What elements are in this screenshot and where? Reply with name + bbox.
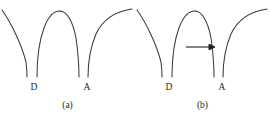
figure-container: D A (a) D A (b) (0, 0, 270, 122)
panel-b-acceptor-label: A (214, 83, 230, 93)
right-outer-wall-curve (88, 9, 132, 77)
panel-b-donor-label: D (161, 83, 177, 93)
panel-a: D A (a) (0, 0, 135, 122)
panel-b: D A (b) (135, 0, 270, 122)
panel-b-caption: (b) (135, 101, 270, 111)
panel-a-caption: (a) (0, 101, 135, 111)
acceptor-well-inner-wall-curve (60, 11, 79, 77)
panel-a-acceptor-label: A (79, 83, 95, 93)
panel-a-donor-label: D (26, 83, 42, 93)
donor-well-inner-wall-curve (37, 11, 60, 77)
left-outer-wall-curve (2, 10, 27, 77)
transfer-arrow-head (209, 44, 215, 50)
